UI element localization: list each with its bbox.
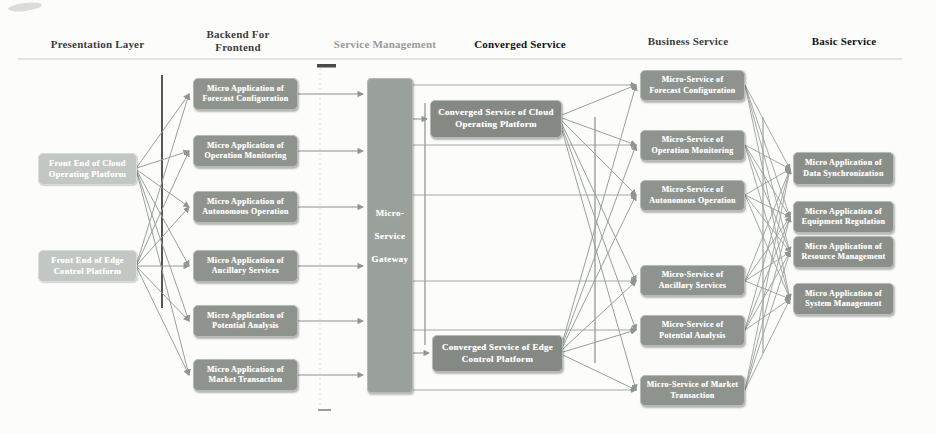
column-header-converged-service: Converged Service [455,38,585,51]
node-basic-data-synchronization: Micro Application of Data Synchronizatio… [793,152,894,185]
gateway-label-line3: Gateway [372,254,409,264]
node-front-end-edge-control-platform: Front End of Edge Control Platform [38,250,137,282]
node-converged-service-edge: Converged Service of Edge Control Platfo… [432,335,563,372]
node-svc-operation-monitoring: Micro-Service of Operation Monitoring [640,130,745,161]
column-header-presentation-layer: Presentation Layer [30,38,165,51]
edges-gateway-to-converged [413,119,429,353]
node-svc-potential-analysis: Micro-Service of Potential Analysis [640,315,745,346]
node-svc-autonomous-operation: Micro-Service of Autonomous Operation [640,180,745,211]
node-basic-equipment-regulation: Micro Application of Equipment Regulatio… [793,201,894,233]
node-app-market-transaction: Micro Application of Market Transaction [193,359,298,391]
node-svc-market-transaction: Micro-Service of Market Transaction [640,375,745,406]
column-header-service-management: Service Management [320,38,450,51]
edges-business-to-basic [745,85,790,390]
node-app-potential-analysis: Micro Application of Potential Analysis [193,305,298,337]
node-basic-resource-management: Micro Application of Resource Management [793,236,894,268]
node-svc-forecast-configuration: Micro-Service of Forecast Configuration [640,70,745,101]
architecture-diagram: Presentation Layer Backend For Frontend … [0,0,936,434]
node-converged-service-cloud: Converged Service of Cloud Operating Pla… [430,100,562,138]
column-header-business-service: Business Service [628,35,748,48]
node-app-operation-monitoring: Micro Application of Operation Monitorin… [193,135,298,167]
column-header-backend-for-frontend: Backend For Frontend [196,28,280,53]
edges-converged-cloud-to-business [562,85,636,390]
node-front-end-cloud-operating-platform: Front End of Cloud Operating Platform [38,153,137,185]
gateway-label-line2: Service [375,231,406,241]
node-app-autonomous-operation: Micro Application of Autonomous Operatio… [193,191,298,223]
column-header-basic-service: Basic Service [788,35,900,48]
edges-backend-to-gateway [298,94,363,375]
node-svc-ancillary-services: Micro-Service of Ancillary Services [640,265,745,296]
edges-presentation-to-backend [137,94,189,375]
edges-converged-edge-to-business [563,85,636,390]
node-app-forecast-configuration: Micro Application of Forecast Configurat… [193,78,298,110]
node-micro-service-gateway: Micro- Service Gateway [367,78,413,393]
node-app-ancillary-services: Micro Application of Ancillary Services [193,250,298,282]
gateway-label-line1: Micro- [376,208,405,218]
node-basic-system-management: Micro Application of System Management [793,283,894,315]
